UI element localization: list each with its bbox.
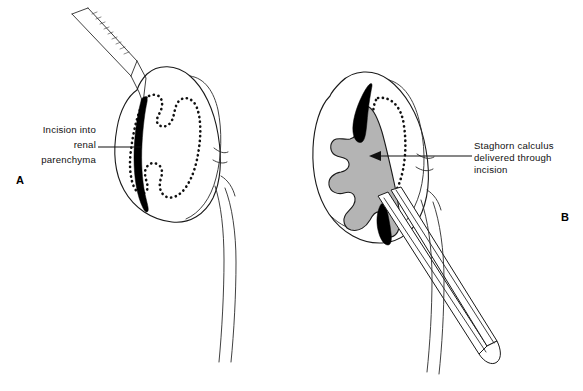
label-a-line-2: renal (74, 139, 96, 150)
label-b-line-3: incision (474, 164, 508, 175)
label-b-line-2: delivered through (474, 152, 552, 163)
figure-background (0, 0, 583, 391)
label-a-line-3: parenchyma (41, 154, 96, 165)
label-a-line-1: Incision into (43, 124, 96, 135)
surgical-illustration-svg: Incision into renal parenchyma A (0, 0, 583, 391)
panel-letter-a: A (16, 174, 24, 186)
panel-letter-b: B (561, 211, 569, 223)
figure-root: Incision into renal parenchyma A (0, 0, 583, 391)
label-b-line-1: Staghorn calculus (474, 140, 554, 151)
